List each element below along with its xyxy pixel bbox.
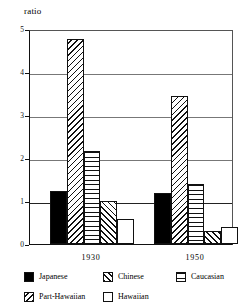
y-tick-label: 1 bbox=[0, 198, 24, 206]
legend-label: Caucasian bbox=[191, 272, 224, 282]
bar-part-hawaiian-1930 bbox=[67, 39, 84, 244]
legend-label: Hawaiian bbox=[118, 292, 149, 302]
bar-chinese-1950 bbox=[204, 231, 221, 244]
bar-part-hawaiian-1950 bbox=[171, 96, 188, 244]
y-tick-mark bbox=[25, 116, 29, 117]
y-tick-label: 4 bbox=[0, 69, 24, 77]
bar-hawaiian-1950 bbox=[221, 227, 238, 244]
y-tick-mark bbox=[25, 202, 29, 203]
legend-label: Chinese bbox=[118, 272, 144, 282]
y-tick-label: 2 bbox=[0, 155, 24, 163]
y-tick-mark bbox=[25, 159, 29, 160]
y-tick-label: 3 bbox=[0, 112, 24, 120]
legend-item-chinese: Chinese bbox=[103, 272, 144, 282]
x-group-label-1950: 1950 bbox=[153, 253, 237, 262]
x-group-label-1930: 1930 bbox=[49, 253, 133, 262]
legend-item-caucasian: Caucasian bbox=[176, 272, 224, 282]
legend-swatch-part-hawaiian bbox=[24, 292, 34, 302]
legend-item-japanese: Japanese bbox=[24, 272, 67, 282]
bar-series-container bbox=[30, 31, 232, 244]
plot-area bbox=[29, 30, 233, 245]
y-tick-mark bbox=[25, 73, 29, 74]
bar-japanese-1930 bbox=[50, 191, 67, 244]
y-tick-mark bbox=[25, 30, 29, 31]
legend-swatch-chinese bbox=[103, 272, 113, 282]
bar-chinese-1930 bbox=[100, 201, 117, 244]
y-tick-label: 0 bbox=[0, 241, 24, 249]
legend-label: Part-Hawaiian bbox=[39, 292, 85, 302]
bar-caucasian-1950 bbox=[188, 184, 205, 244]
bar-caucasian-1930 bbox=[84, 151, 101, 244]
chart-figure: ratio 012345 19301950 JapaneseChineseCau… bbox=[0, 0, 249, 308]
legend-swatch-japanese bbox=[24, 272, 34, 282]
legend-item-hawaiian: Hawaiian bbox=[103, 292, 149, 302]
chart-legend: JapaneseChineseCaucasianPart-HawaiianHaw… bbox=[0, 268, 249, 308]
y-tick-label: 5 bbox=[0, 26, 24, 34]
legend-swatch-hawaiian bbox=[103, 292, 113, 302]
legend-label: Japanese bbox=[39, 272, 67, 282]
y-tick-mark bbox=[25, 245, 29, 246]
legend-item-part-hawaiian: Part-Hawaiian bbox=[24, 292, 85, 302]
y-axis-label: ratio bbox=[24, 6, 42, 16]
bar-japanese-1950 bbox=[154, 193, 171, 244]
bar-hawaiian-1930 bbox=[117, 219, 134, 244]
legend-swatch-caucasian bbox=[176, 272, 186, 282]
